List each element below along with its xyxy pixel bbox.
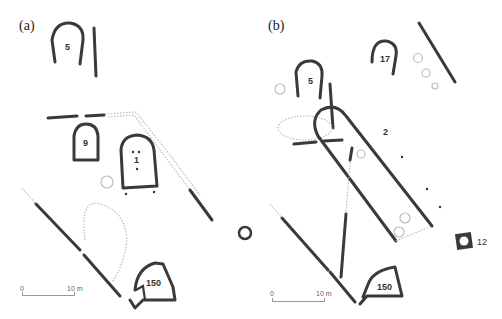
scale-start-b: 0 — [270, 290, 274, 297]
label-structure-12: 12 — [477, 237, 487, 247]
label-structure-2: 2 — [383, 127, 388, 137]
label-structure-150b: 150 — [377, 282, 392, 292]
panel-a-plan — [22, 23, 212, 308]
scale-end-a: 10 m — [67, 285, 83, 292]
site-plan-figure: (a) (b) 5 9 1 150 5 17 2 12 150 0 10 m 0… — [0, 0, 502, 319]
plan-drawing — [0, 0, 502, 319]
label-structure-1: 1 — [134, 155, 139, 165]
label-structure-17: 17 — [380, 54, 390, 64]
panel-b-plan — [239, 23, 473, 304]
panel-b-label: (b) — [268, 18, 284, 34]
scale-bar-b — [272, 298, 325, 302]
scale-end-b: 10 m — [316, 290, 332, 297]
label-structure-9: 9 — [83, 138, 88, 148]
panel-a-label: (a) — [19, 18, 35, 34]
label-structure-5a: 5 — [65, 42, 70, 52]
scale-start-a: 0 — [20, 285, 24, 292]
label-structure-150a: 150 — [146, 278, 161, 288]
scale-bar-a — [22, 292, 75, 296]
label-structure-5b: 5 — [308, 76, 313, 86]
